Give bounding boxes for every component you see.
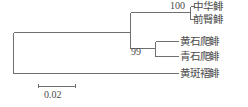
taxon-label-2: 黄石爬鲱 xyxy=(180,36,219,47)
taxon-label-4: 黄斑褶鲱 xyxy=(180,68,219,79)
taxon-label-0: 中华鲱 xyxy=(193,1,222,12)
bootstrap-support-top: 100 xyxy=(170,1,185,11)
bootstrap-support-bottom: 99 xyxy=(131,47,141,57)
taxon-label-1: 前臀鲱 xyxy=(193,14,222,25)
taxon-label-3: 青石爬鲱 xyxy=(180,51,219,62)
scale-bar-label: 0.02 xyxy=(44,90,62,100)
phylogenetic-tree-figure: 中华鲱 前臀鲱 黄石爬鲱 青石爬鲱 黄斑褶鲱 100 99 0.02 xyxy=(0,0,248,107)
